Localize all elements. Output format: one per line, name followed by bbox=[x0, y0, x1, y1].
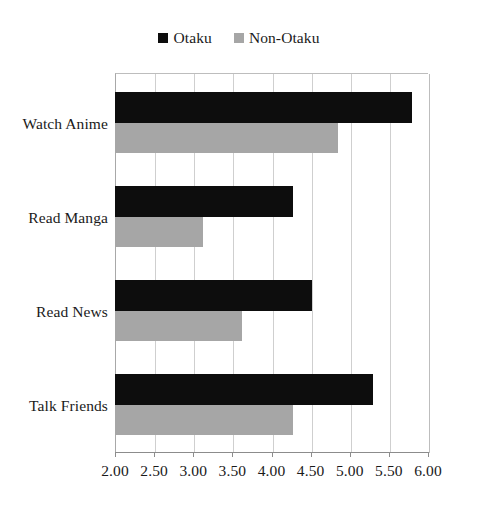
category-label-read-news: Read News bbox=[0, 303, 108, 321]
legend-item-otaku: Otaku bbox=[158, 30, 211, 46]
legend-item-non-otaku: Non-Otaku bbox=[234, 30, 320, 46]
tick-mark-6-00 bbox=[428, 452, 429, 457]
tick-mark-4-00 bbox=[272, 452, 273, 457]
bar-non-otaku-read-news bbox=[115, 311, 242, 341]
tick-mark-5-00 bbox=[350, 452, 351, 457]
tick-mark-3-50 bbox=[232, 452, 233, 457]
tick-mark-3-00 bbox=[193, 452, 194, 457]
tick-mark-2-00 bbox=[115, 452, 116, 457]
bar-otaku-read-manga bbox=[115, 186, 293, 217]
legend-label-otaku: Otaku bbox=[173, 30, 211, 46]
bar-otaku-watch-anime bbox=[115, 92, 412, 123]
square-marker-icon bbox=[234, 33, 244, 43]
bar-non-otaku-watch-anime bbox=[115, 123, 338, 153]
tick-mark-2-50 bbox=[154, 452, 155, 457]
category-label-read-manga: Read Manga bbox=[0, 209, 108, 227]
bar-non-otaku-read-manga bbox=[115, 217, 203, 247]
bar-non-otaku-talk-friends bbox=[115, 405, 293, 435]
legend-label-non-otaku: Non-Otaku bbox=[249, 30, 320, 46]
bar-otaku-talk-friends bbox=[115, 374, 373, 405]
x-tick-label-6-00: 6.00 bbox=[398, 462, 458, 481]
bar-otaku-read-news bbox=[115, 280, 312, 311]
tick-mark-4-50 bbox=[311, 452, 312, 457]
category-label-watch-anime: Watch Anime bbox=[0, 115, 108, 133]
gridline-5-50 bbox=[390, 74, 391, 453]
square-marker-icon bbox=[158, 33, 168, 43]
bar-chart: Otaku Non-Otaku Watch Anime Read Manga R… bbox=[0, 0, 478, 505]
chart-legend: Otaku Non-Otaku bbox=[0, 30, 478, 46]
gridline-6-00 bbox=[429, 74, 430, 453]
tick-mark-5-50 bbox=[389, 452, 390, 457]
category-label-talk-friends: Talk Friends bbox=[0, 397, 108, 415]
